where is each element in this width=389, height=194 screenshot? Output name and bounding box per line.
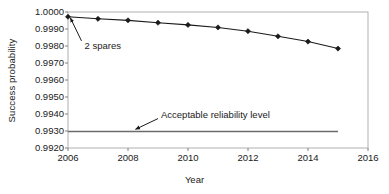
x-tick-label: 2016: [357, 153, 378, 163]
x-tick-label: 2006: [57, 153, 78, 163]
x-axis-title: Year: [0, 174, 389, 185]
x-tick-label: 2008: [117, 153, 138, 163]
annotation-label: Acceptable reliability level: [161, 109, 270, 120]
x-axis-tick-labels: 200620082010201220142016: [0, 0, 389, 194]
chart-figure: Success probability 1.00000.99900.99800.…: [0, 0, 389, 194]
x-tick-label: 2012: [237, 153, 258, 163]
x-tick-label: 2010: [177, 153, 198, 163]
x-tick-label: 2014: [297, 153, 318, 163]
annotation-label: 2 spares: [85, 40, 121, 51]
